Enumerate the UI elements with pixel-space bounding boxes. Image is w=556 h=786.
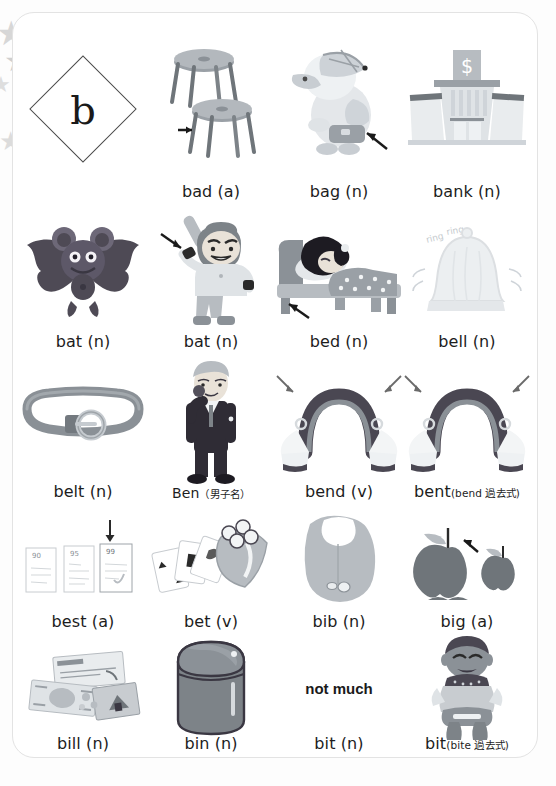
belt-art (19, 361, 147, 483)
entry-bit-past: bit(bite 過去式) (403, 641, 531, 758)
letter-diamond: b (19, 17, 147, 211)
test-score-1: 90 (32, 552, 41, 560)
bell-art: ring ring (403, 211, 531, 333)
cell-label: bib (n) (312, 613, 365, 637)
bib-icon (294, 514, 384, 610)
entry-bag: bag (n) (275, 17, 403, 211)
bend-art (275, 361, 403, 483)
cell-label: belt (n) (53, 483, 112, 507)
cell-label-sub: (bend 過去式) (451, 487, 520, 499)
not-much-art: not much (275, 641, 403, 735)
entry-bent: bent(bend 過去式) (403, 361, 531, 511)
cell-label-main: Ben (172, 485, 199, 501)
decorative-star-3: ★ (0, 74, 11, 96)
entry-best: 90 95 99 (19, 511, 147, 641)
bat-animal-icon (23, 221, 143, 323)
stools-icon (156, 40, 266, 160)
bent-art (403, 361, 531, 483)
entry-bat-animal: bat (n) (19, 211, 147, 361)
cards-icon (151, 519, 271, 605)
cell-label: Ben（男子名） (172, 486, 250, 507)
biting-icon (419, 636, 515, 740)
entry-bet: bet (v) (147, 511, 275, 641)
page-root: ★ ★ ★ ★ b (0, 0, 556, 786)
cell-label: best (a) (52, 613, 115, 637)
entry-bank: $ (403, 17, 531, 211)
bank-art: $ (403, 17, 531, 183)
entry-bend: bend (v) (275, 361, 403, 511)
cell-label: bill (n) (57, 735, 109, 758)
man-art (147, 361, 275, 486)
man-icon (169, 361, 253, 485)
stools-art (147, 17, 275, 183)
tests-art: 90 95 99 (19, 511, 147, 613)
bib-art (275, 511, 403, 613)
tests-icon: 90 95 99 (22, 518, 144, 606)
cell-label: bend (v) (305, 483, 373, 507)
batter-art (147, 211, 275, 333)
test-score-2: 95 (70, 550, 79, 558)
entry-ben: Ben（男子名） (147, 361, 275, 511)
letter-label: b (70, 90, 96, 130)
cell-label: bed (n) (310, 333, 369, 357)
cell-label: bet (v) (184, 613, 238, 637)
bed-icon (275, 222, 403, 322)
vocabulary-grid: b (13, 13, 537, 757)
test-score-3: 99 (106, 548, 115, 556)
bank-icon: $ (408, 48, 526, 152)
bird-icon (283, 41, 395, 159)
bin-icon (172, 638, 250, 738)
entry-bed: bed (n) (275, 211, 403, 361)
bird-art (275, 17, 403, 183)
entry-bin: bin (n) (147, 641, 275, 758)
cell-label: bit (n) (314, 735, 363, 758)
entry-big: big (a) (403, 511, 531, 641)
bent-icon (403, 374, 531, 470)
cell-label: bank (n) (433, 183, 501, 207)
bell-sound-left: ring (425, 231, 445, 245)
cards-art (147, 511, 275, 613)
cell-label: bat (n) (184, 333, 239, 357)
bend-icon (275, 374, 403, 470)
bed-art (275, 211, 403, 333)
entry-bat-club: bat (n) (147, 211, 275, 361)
apples-icon (406, 516, 528, 608)
cell-label: bat (n) (56, 333, 111, 357)
money-art (19, 641, 147, 735)
vocabulary-card: b (12, 12, 538, 758)
not-much-text: not much (305, 680, 373, 697)
cell-label: bag (n) (310, 183, 369, 207)
bell-icon: ring ring (411, 221, 523, 323)
entry-bit-noun: not much bit (n) (275, 641, 403, 758)
cell-label: big (a) (441, 613, 494, 637)
cell-label: bad (a) (182, 183, 240, 207)
entry-bill: bill (n) (19, 641, 147, 758)
diamond-art: b (19, 17, 147, 201)
cell-label: bell (n) (438, 333, 495, 357)
entry-bib: bib (n) (275, 511, 403, 641)
entry-bad: bad (a) (147, 17, 275, 211)
entry-belt: belt (n) (19, 361, 147, 511)
entry-bell: ring ring (403, 211, 531, 361)
apples-art (403, 511, 531, 613)
cell-label-main: bent (414, 482, 451, 501)
belt-icon (21, 387, 145, 457)
biting-art (403, 641, 531, 735)
cell-label-sub: (bite 過去式) (446, 739, 509, 751)
cell-label-sub: （男子名） (199, 488, 250, 500)
bat-animal-art (19, 211, 147, 333)
bank-sign: $ (461, 55, 473, 77)
batter-icon (159, 216, 263, 328)
cell-label: bent(bend 過去式) (414, 483, 520, 507)
bin-art (147, 641, 275, 735)
cell-label: bin (n) (184, 735, 237, 758)
money-icon (22, 649, 144, 727)
